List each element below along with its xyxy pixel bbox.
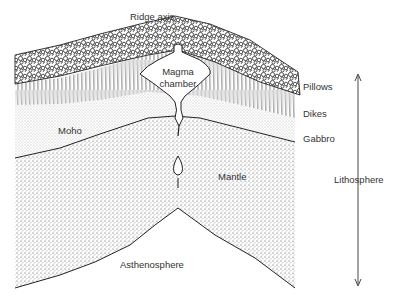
label-dikes: Dikes bbox=[303, 109, 327, 119]
label-ridge-axis: Ridge axis bbox=[130, 12, 174, 22]
label-lithosphere: Lithosphere bbox=[334, 175, 384, 185]
label-gabbro: Gabbro bbox=[303, 134, 335, 144]
label-magma-chamber-1: Magma bbox=[148, 67, 208, 77]
label-magma-chamber-2: chamber bbox=[148, 79, 208, 89]
label-pillows: Pillows bbox=[303, 82, 333, 92]
label-asthenosphere: Asthenosphere bbox=[120, 260, 184, 270]
label-moho: Moho bbox=[58, 126, 82, 136]
ridge-cross-section bbox=[0, 0, 397, 302]
label-mantle: Mantle bbox=[218, 172, 247, 182]
